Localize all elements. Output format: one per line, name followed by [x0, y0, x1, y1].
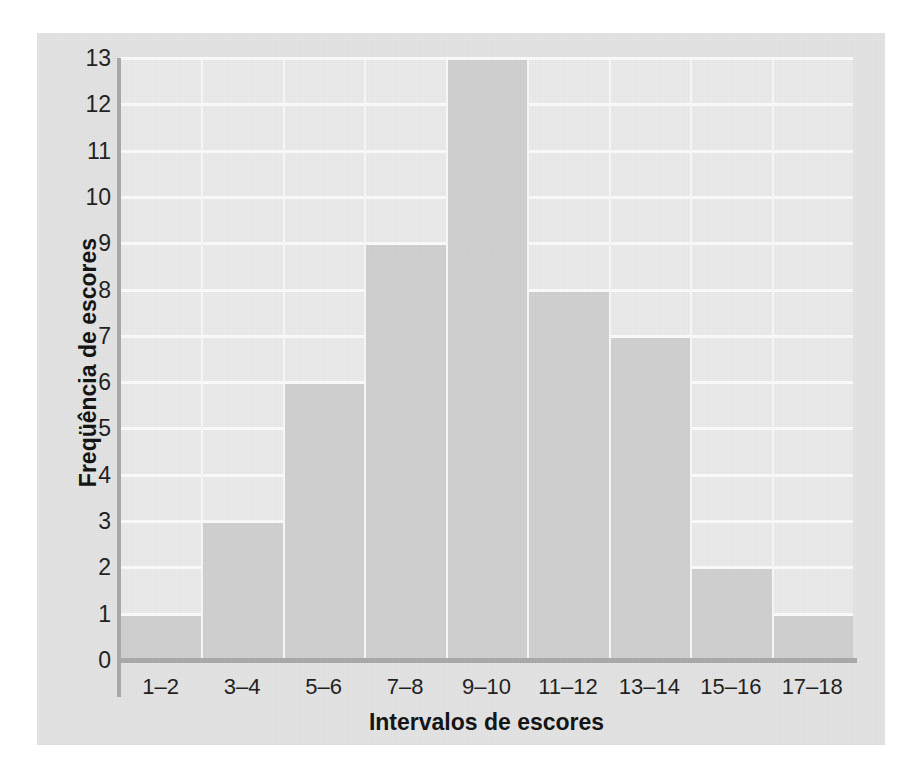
- bar: [446, 60, 527, 662]
- bar-separator: [772, 60, 774, 662]
- bar-slot: [201, 60, 282, 662]
- x-axis-line: [117, 658, 857, 663]
- x-tick-label: 9–10: [446, 674, 527, 700]
- bar-separator: [446, 60, 448, 662]
- plot-area: [120, 60, 853, 662]
- bar-slot: [120, 60, 201, 662]
- x-tick-label: 11–12: [527, 674, 608, 700]
- bar-slot: [446, 60, 527, 662]
- bar-slot: [690, 60, 771, 662]
- bar: [283, 384, 364, 662]
- x-tick-label: 7–8: [364, 674, 445, 700]
- x-axis-tick-labels: 1–23–45–67–89–1011–1213–1415–1617–18: [120, 674, 853, 700]
- y-axis-title: Freqüência de escores: [75, 53, 102, 673]
- y-axis-line: [117, 58, 121, 697]
- bar-slot: [364, 60, 445, 662]
- bar: [201, 523, 282, 662]
- x-axis-title: Intervalos de escores: [120, 709, 853, 736]
- bar-separator: [201, 60, 203, 662]
- figure-screenshot: 012345678910111213 1–23–45–67–89–1011–12…: [0, 0, 907, 774]
- x-tick-label: 15–16: [690, 674, 771, 700]
- bar-slot: [527, 60, 608, 662]
- bar: [690, 569, 771, 662]
- bar-slot: [772, 60, 853, 662]
- bar-separator: [690, 60, 692, 662]
- bar-slot: [283, 60, 364, 662]
- bar-series: [120, 60, 853, 662]
- chart-panel: 012345678910111213 1–23–45–67–89–1011–12…: [37, 33, 885, 745]
- bar-separator: [527, 60, 529, 662]
- bar-separator: [283, 60, 285, 662]
- bar: [364, 245, 445, 662]
- bar: [120, 616, 201, 662]
- x-tick-label: 1–2: [120, 674, 201, 700]
- x-tick-label: 3–4: [201, 674, 282, 700]
- bar: [772, 616, 853, 662]
- bar-separator: [609, 60, 611, 662]
- bar-separator: [364, 60, 366, 662]
- bar: [609, 338, 690, 662]
- x-tick-label: 5–6: [283, 674, 364, 700]
- bar: [527, 292, 608, 662]
- x-tick-label: 17–18: [772, 674, 853, 700]
- bar-slot: [609, 60, 690, 662]
- x-tick-label: 13–14: [609, 674, 690, 700]
